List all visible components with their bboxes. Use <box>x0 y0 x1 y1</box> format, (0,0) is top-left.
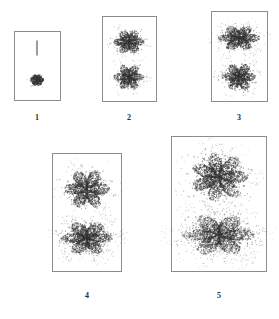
panel-label-1: 1 <box>28 113 46 123</box>
panel-4-speckle-blob-2 <box>46 210 128 266</box>
panel-3-speckle-blob-1 <box>207 18 271 59</box>
panel-label-2: 2 <box>120 113 138 123</box>
panel-label-5: 5 <box>210 291 228 301</box>
panel-label-4: 4 <box>78 291 96 301</box>
panel-2-speckle-blob-2 <box>106 57 153 98</box>
panel-5-speckle-blob-2 <box>161 200 277 270</box>
panel-2-speckle-blob-1 <box>106 23 153 61</box>
panel-label-3: 3 <box>230 113 248 123</box>
panel-1 <box>14 31 61 101</box>
panel-1-marker-line <box>37 41 38 56</box>
panel-3-speckle-blob-2 <box>213 55 266 99</box>
figure-canvas: 12345 <box>0 0 279 319</box>
panel-1-speckle-blob-2 <box>27 71 48 89</box>
